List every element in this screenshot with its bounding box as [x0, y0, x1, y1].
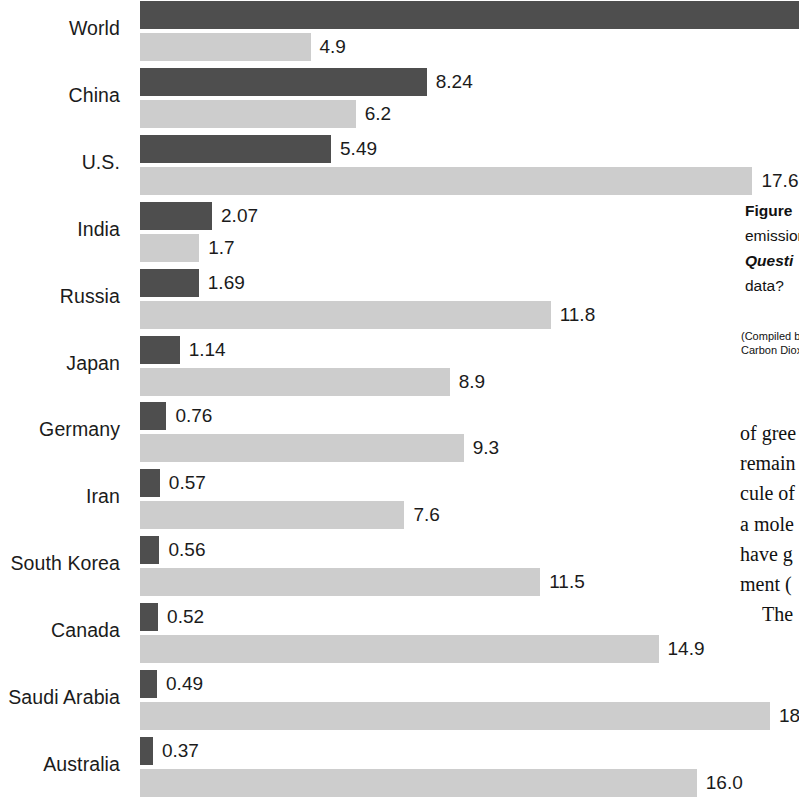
bar-total-emissions — [140, 202, 212, 230]
bar-per-capita-emissions — [140, 234, 199, 262]
bar-chart: World4.9China8.246.2U.S.5.4917.6India2.0… — [0, 0, 799, 799]
bar-row-label: Canada — [0, 619, 120, 642]
bar-value-total: 8.24 — [436, 68, 473, 96]
bar-row-label: Germany — [0, 418, 120, 441]
bar-value-per-capita: 18 — [779, 702, 799, 730]
bar-per-capita-emissions — [140, 635, 659, 663]
body-text-line: ment ( — [740, 569, 799, 599]
bar-row-label: India — [0, 218, 120, 241]
bar-value-total: 5.49 — [340, 135, 377, 163]
bar-per-capita-emissions — [140, 33, 311, 61]
caption-line: emission — [745, 223, 799, 248]
body-text-line: remain — [740, 448, 799, 478]
bar-value-per-capita: 9.3 — [473, 434, 499, 462]
bar-total-emissions — [140, 402, 166, 430]
bar-value-total: 1.69 — [208, 269, 245, 297]
bar-row: Germany0.769.3 — [0, 402, 799, 464]
bar-value-total: 0.52 — [167, 603, 204, 631]
bar-row: Iran0.577.6 — [0, 469, 799, 531]
body-text-line: a mole — [740, 509, 799, 539]
bar-value-total: 0.76 — [175, 402, 212, 430]
source-note-line: Carbon Diox — [741, 344, 799, 358]
figure-root: World4.9China8.246.2U.S.5.4917.6India2.0… — [0, 0, 799, 799]
bar-value-total: 1.14 — [189, 336, 226, 364]
figure-caption: FigureemissionQuestidata? — [745, 198, 799, 298]
bar-per-capita-emissions — [140, 434, 464, 462]
bar-total-emissions — [140, 1, 799, 29]
bar-per-capita-emissions — [140, 100, 356, 128]
bar-row-label: Saudi Arabia — [0, 686, 120, 709]
bar-value-per-capita: 8.9 — [459, 368, 485, 396]
source-note-line: (Compiled b — [741, 330, 799, 344]
bar-row: India2.071.7 — [0, 202, 799, 264]
bar-value-per-capita: 11.5 — [549, 568, 585, 596]
caption-line: Figure — [745, 198, 799, 223]
bar-total-emissions — [140, 670, 157, 698]
bar-value-total: 0.56 — [168, 536, 205, 564]
bar-value-per-capita: 11.8 — [560, 301, 596, 329]
bar-per-capita-emissions — [140, 568, 540, 596]
bar-row: Australia0.3716.0 — [0, 737, 799, 799]
figure-source-note: (Compiled bCarbon Diox — [741, 330, 799, 357]
bar-per-capita-emissions — [140, 501, 404, 529]
bar-value-total: 0.57 — [169, 469, 206, 497]
bar-total-emissions — [140, 135, 331, 163]
bar-row: U.S.5.4917.6 — [0, 135, 799, 197]
bar-total-emissions — [140, 336, 180, 364]
bar-row-label: Russia — [0, 285, 120, 308]
bar-total-emissions — [140, 469, 160, 497]
bar-value-total: 0.37 — [162, 737, 199, 765]
caption-line: data? — [745, 273, 799, 298]
bar-per-capita-emissions — [140, 368, 450, 396]
bar-row-label: U.S. — [0, 151, 120, 174]
bar-row: South Korea0.5611.5 — [0, 536, 799, 598]
bar-value-per-capita: 14.9 — [668, 635, 705, 663]
article-body-text: of greeremaincule ofa molehave gment (Th… — [740, 418, 799, 629]
bar-row: Canada0.5214.9 — [0, 603, 799, 665]
bar-value-per-capita: 4.9 — [320, 33, 346, 61]
bar-per-capita-emissions — [140, 301, 551, 329]
body-text-line: have g — [740, 539, 799, 569]
bar-row: Russia1.6911.8 — [0, 269, 799, 331]
bar-per-capita-emissions — [140, 769, 697, 797]
bar-row: China8.246.2 — [0, 68, 799, 130]
bar-value-per-capita: 1.7 — [208, 234, 234, 262]
bar-per-capita-emissions — [140, 702, 770, 730]
bar-total-emissions — [140, 68, 427, 96]
bar-row-label: China — [0, 84, 120, 107]
bar-total-emissions — [140, 603, 158, 631]
bar-value-per-capita: 6.2 — [365, 100, 391, 128]
bar-row: Saudi Arabia0.4918 — [0, 670, 799, 732]
bar-row-label: World — [0, 17, 120, 40]
body-text-line: cule of — [740, 478, 799, 508]
body-text-line: of gree — [740, 418, 799, 448]
bar-total-emissions — [140, 269, 199, 297]
bar-row-label: South Korea — [0, 552, 120, 575]
bar-row-label: Australia — [0, 753, 120, 776]
bar-row-label: Japan — [0, 352, 120, 375]
bar-value-total: 2.07 — [221, 202, 258, 230]
bar-value-per-capita: 17.6 — [761, 167, 798, 195]
bar-total-emissions — [140, 536, 159, 564]
bar-row-label: Iran — [0, 485, 120, 508]
bar-row: Japan1.148.9 — [0, 336, 799, 398]
bar-value-per-capita: 7.6 — [413, 501, 439, 529]
bar-per-capita-emissions — [140, 167, 752, 195]
bar-value-total: 0.49 — [166, 670, 203, 698]
bar-row: World4.9 — [0, 1, 799, 63]
caption-line: Questi — [745, 248, 799, 273]
bar-total-emissions — [140, 737, 153, 765]
body-text-line: The — [740, 599, 799, 629]
bar-value-per-capita: 16.0 — [706, 769, 743, 797]
